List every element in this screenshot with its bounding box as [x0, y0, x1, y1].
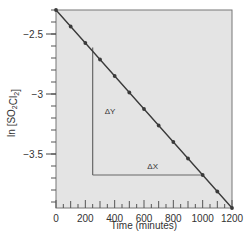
x-axis-title: Time (minutes): [111, 220, 177, 231]
y-axis-title-part: Cl: [8, 96, 19, 105]
chart: 020040060080010001200−2.5−3−3.5 Time (mi…: [0, 0, 248, 233]
x-tick-label: 1000: [192, 213, 215, 224]
data-point: [230, 206, 234, 210]
y-axis-title-part: ln [SO: [6, 109, 17, 137]
data-point: [215, 190, 219, 194]
data-point: [98, 58, 102, 62]
y-tick-label: −2.5: [23, 29, 43, 40]
major-ticks: [46, 34, 56, 154]
data-point: [201, 173, 205, 177]
y-axis-title-part: ]: [10, 89, 21, 92]
delta-y-label: ΔY: [105, 107, 116, 116]
delta-x-label: ΔX: [147, 162, 158, 171]
data-point: [113, 74, 117, 78]
data-point: [171, 140, 175, 144]
data-point: [69, 25, 73, 29]
data-point: [83, 41, 87, 45]
x-tick-label: 200: [77, 213, 94, 224]
y-axis-title: ln [SO2Cl2]: [6, 89, 21, 137]
y-tick-label: −3.5: [23, 149, 43, 160]
y-minor-ticks: [51, 10, 56, 202]
data-point: [157, 124, 161, 128]
x-tick-label: 0: [53, 213, 59, 224]
x-tick-label: 1200: [221, 213, 244, 224]
data-point: [54, 8, 58, 12]
data-point: [186, 157, 190, 161]
y-tick-label: −3: [32, 89, 44, 100]
data-point: [127, 91, 131, 95]
data-point: [142, 107, 146, 111]
